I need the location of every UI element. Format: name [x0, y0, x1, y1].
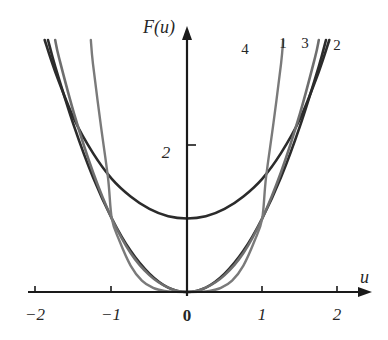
x-tick-label-0: 0 [183, 306, 192, 325]
x-tick-label-minus1: −1 [101, 305, 121, 324]
x-tick-label-1: 1 [258, 305, 267, 324]
x-tick-label-minus2: −2 [25, 305, 45, 324]
x-axis-arrowhead [358, 287, 372, 297]
x-axis-label: u [360, 267, 369, 287]
curve-label-1: 1 [279, 35, 287, 51]
curve-label-2: 2 [333, 37, 341, 53]
chart-figure: F(u) u 2 −2 −1 0 1 2 4132 [0, 0, 388, 340]
labels-layer: F(u) u 2 −2 −1 0 1 2 [25, 17, 369, 325]
y-axis-arrowhead [182, 26, 192, 40]
curve-label-3: 3 [301, 35, 309, 51]
y-axis-label: F(u) [142, 17, 175, 38]
y-tick-label-2: 2 [162, 143, 171, 162]
function-plot-svg: F(u) u 2 −2 −1 0 1 2 4132 [0, 0, 388, 340]
curve-label-4: 4 [241, 41, 249, 57]
x-tick-label-2: 2 [333, 305, 342, 324]
